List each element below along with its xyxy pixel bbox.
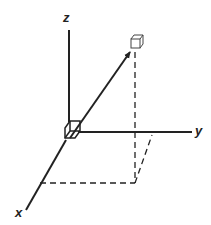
coordinate-system-svg: [0, 0, 211, 225]
projection-lines: [40, 52, 152, 183]
diagram-canvas: z y x: [0, 0, 211, 225]
target-cube: [131, 35, 143, 48]
position-vector-arrow: [70, 52, 130, 138]
x-axis: [26, 140, 66, 210]
z-axis-label: z: [63, 11, 70, 24]
x-axis-label: x: [15, 206, 22, 219]
y-axis-label: y: [195, 124, 202, 137]
y-projection: [135, 135, 152, 183]
